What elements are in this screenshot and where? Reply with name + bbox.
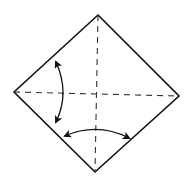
origami-diagram: [0, 0, 190, 191]
